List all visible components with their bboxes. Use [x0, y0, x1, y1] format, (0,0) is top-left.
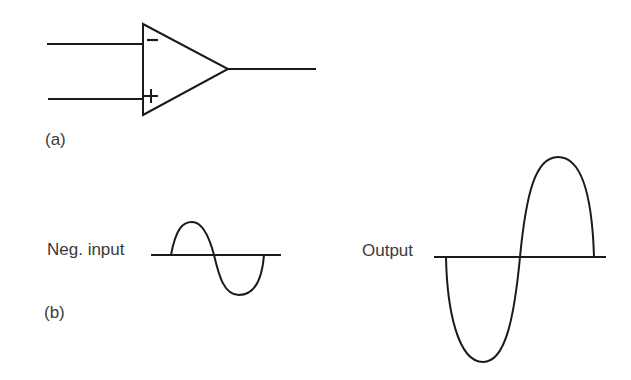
panel-a-label: (a) — [45, 131, 66, 148]
output-sine-wave — [446, 157, 594, 362]
plus-sign-icon — [144, 89, 158, 103]
opamp-diagram: (a) Neg. input (b) Output — [0, 0, 631, 380]
neg-input-label: Neg. input — [47, 241, 125, 258]
diagram-graphics — [0, 0, 631, 380]
output-label: Output — [362, 242, 413, 259]
panel-b-label: (b) — [44, 304, 65, 321]
opamp-triangle — [143, 24, 228, 115]
neg-input-sine-wave — [171, 222, 264, 295]
